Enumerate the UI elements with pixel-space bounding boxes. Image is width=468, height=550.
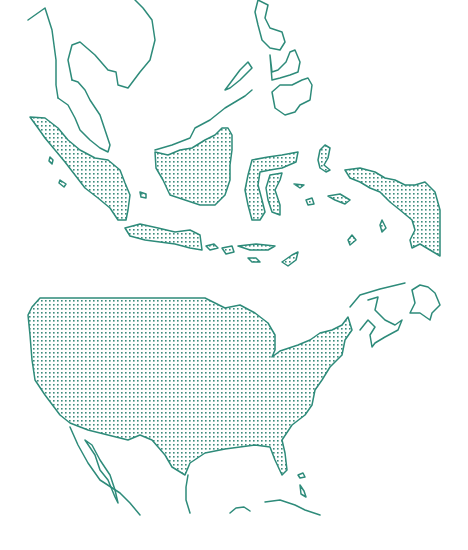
siberut <box>59 180 66 187</box>
cuba-outline <box>265 500 320 515</box>
sulawesi <box>245 152 298 220</box>
buru <box>306 198 314 205</box>
bangka <box>140 192 146 198</box>
sumatra <box>30 117 130 220</box>
yucatan-outline <box>230 507 250 513</box>
southeast-asia-map <box>0 0 468 275</box>
lesser-sunda-islands <box>238 244 298 266</box>
halmahera <box>318 145 330 172</box>
newfoundland-outline <box>410 285 440 320</box>
nias <box>49 157 53 164</box>
timor <box>348 235 356 245</box>
seram <box>328 194 350 204</box>
sula-islands <box>294 184 304 188</box>
philippines-outline <box>255 0 312 115</box>
bahamas-outline <box>298 473 306 497</box>
canadian-maritimes-outline <box>350 283 405 347</box>
papua <box>345 168 440 256</box>
kalimantan <box>155 128 232 205</box>
bali-lombok <box>206 244 234 254</box>
aru-islands <box>380 220 386 232</box>
sumbawa <box>248 258 260 262</box>
north-america-map <box>0 275 468 550</box>
mexico-west-coast <box>70 427 140 515</box>
united-states <box>28 298 352 475</box>
baja-california-outline <box>85 440 118 503</box>
indochina-outline <box>28 0 155 98</box>
palawan-outline <box>225 62 252 90</box>
java <box>125 224 202 250</box>
mexico-gulf-coast <box>186 475 190 513</box>
